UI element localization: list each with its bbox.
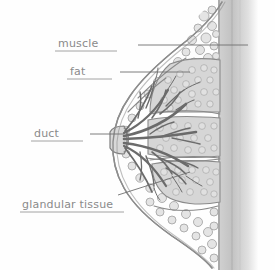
diagram-page: muscle fat duct glandular tissue xyxy=(0,0,275,270)
label-fat: fat xyxy=(67,65,112,79)
label-muscle-text: muscle xyxy=(58,37,99,50)
label-duct-text: duct xyxy=(34,127,60,140)
chest-wall-muscle xyxy=(218,0,258,270)
label-fat-text: fat xyxy=(70,65,86,78)
label-glandular-tissue: glandular tissue xyxy=(20,198,124,212)
breast-anatomy-figure: muscle fat duct glandular tissue xyxy=(0,0,275,270)
label-glandular-tissue-text: glandular tissue xyxy=(22,198,113,211)
label-muscle: muscle xyxy=(55,37,117,51)
label-duct: duct xyxy=(31,127,83,141)
